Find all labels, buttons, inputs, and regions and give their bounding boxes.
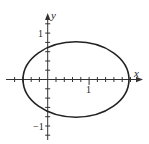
y-axis-arrow-icon (45, 13, 50, 20)
ellipse-plot: y x 1 1 −1 (0, 0, 149, 144)
x-axis-label: x (133, 67, 139, 79)
y-tick-label-1: 1 (38, 28, 43, 39)
y-axis-label: y (50, 9, 56, 21)
y-tick-label-neg1: −1 (33, 121, 44, 132)
x-ticks (15, 77, 131, 85)
x-tick-label-1: 1 (86, 84, 91, 95)
